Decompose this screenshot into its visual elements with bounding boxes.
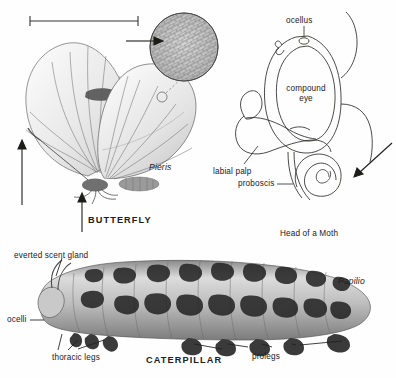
figure-artwork: [0, 0, 396, 378]
butterfly-caption: BUTTERFLY: [88, 215, 152, 226]
scent-gland-leader: [56, 258, 62, 276]
proleg: [181, 338, 202, 355]
labial-palp-leader: [244, 146, 258, 164]
caterpillar-illustration: [30, 258, 370, 356]
scale-inset-arrow: [126, 37, 163, 45]
moth-head-caption: Head of a Moth: [280, 229, 338, 238]
butterfly-illustration: [18, 13, 218, 232]
compound-eye-label: compound eye: [278, 84, 334, 105]
thoracic-leg: [103, 336, 118, 352]
compound-eye-label-line2: eye: [299, 94, 313, 103]
wing-scales-inset: [150, 13, 218, 81]
proleg: [283, 338, 304, 355]
thoracic-leg: [85, 334, 99, 349]
moth-ocellus: [299, 38, 309, 44]
legs-arrow: [78, 193, 86, 232]
proboscis-coil-arrow: [354, 143, 392, 177]
moth-labial-palp: [236, 116, 331, 154]
moth-palp-tip: [241, 91, 262, 119]
caterpillar-caption: CATERPILLAR: [146, 355, 222, 366]
papilio-genus-label: Papilio: [338, 277, 365, 287]
labial-palp-label: labial palp: [213, 167, 252, 176]
thoracic-legs-leader: [58, 334, 62, 350]
everted-scent-gland-label: everted scent gland: [14, 251, 88, 260]
proleg: [215, 339, 236, 356]
moth-palp-segment: [290, 127, 310, 130]
moth-antenna-base: [275, 41, 284, 55]
pieris-genus-label: Pieris: [149, 163, 171, 173]
thoracic-legs-label: thoracic legs: [52, 353, 100, 362]
insect-anatomy-figure: BUTTERFLY Pieris ocellus compound eye la…: [0, 0, 396, 378]
moth-head-illustration: [236, 12, 373, 200]
compound-eye-label-line1: compound: [286, 84, 325, 93]
thoracic-leg: [70, 333, 82, 347]
scale-bar: [30, 16, 138, 26]
proboscis-label: proboscis: [238, 179, 274, 188]
moth-proboscis-coil: [295, 154, 341, 196]
prolegs-label: prolegs: [252, 352, 280, 361]
butterfly-thorax: [82, 179, 108, 192]
proleg: [327, 334, 350, 353]
moth-head-capsule: [341, 12, 357, 78]
ocellus-label: ocellus: [286, 16, 313, 25]
ocelli-label: ocelli: [7, 315, 27, 324]
antenna-arrow: [18, 140, 26, 205]
